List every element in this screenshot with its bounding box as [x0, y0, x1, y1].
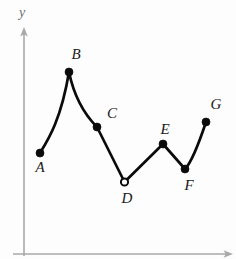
point-label-g: G [211, 96, 222, 112]
curve-group [40, 72, 206, 182]
function-curve [40, 72, 206, 182]
point-label-c: C [107, 105, 118, 121]
y-axis-label: y [17, 5, 26, 20]
figure-container: y ABCDEFG [0, 0, 236, 259]
y-axis-group: y [17, 5, 28, 256]
data-point-a [36, 149, 44, 157]
point-label-b: B [71, 46, 80, 62]
point-label-e: E [159, 121, 169, 137]
data-point-c [93, 123, 101, 131]
point-markers-group: ABCDEFG [34, 46, 221, 206]
data-point-d [121, 178, 128, 185]
data-point-b [65, 68, 73, 76]
data-point-e [159, 140, 167, 148]
data-point-g [202, 118, 210, 126]
point-label-a: A [34, 159, 45, 175]
point-label-d: D [121, 190, 133, 206]
data-point-f [181, 165, 189, 173]
point-label-f: F [183, 177, 194, 193]
x-axis-group [13, 250, 233, 257]
function-graph-figure: y ABCDEFG [0, 0, 236, 259]
